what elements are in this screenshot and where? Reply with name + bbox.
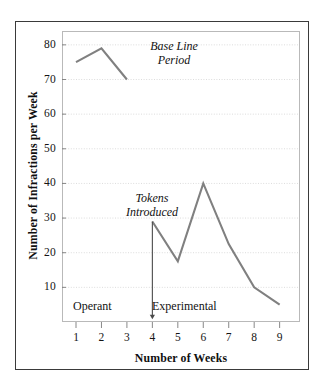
x-axis-title: Number of Weeks — [62, 351, 300, 366]
y-axis-title: Number of Infractions per Week — [26, 66, 41, 286]
x-tick-label-8: 8 — [244, 331, 264, 343]
y-tick-label-80: 80 — [26, 39, 56, 51]
annotation-tokens-introduced-line2: Introduced — [106, 206, 198, 220]
annotation-experimental-phase: Experimental — [152, 300, 217, 313]
x-axis-tick-marks — [76, 322, 280, 328]
x-tick-label-1: 1 — [66, 331, 86, 343]
annotation-operant-phase: Operant — [73, 300, 112, 313]
annotation-base-line-period-line2: Period — [128, 54, 220, 68]
arrow-head — [150, 315, 155, 320]
annotation-base-line-period-line1: Base Line — [128, 40, 220, 54]
x-tick-label-2: 2 — [91, 331, 111, 343]
annotation-tokens-introduced-line1: Tokens — [106, 192, 198, 206]
y-axis-tick-marks — [62, 45, 66, 288]
x-tick-label-4: 4 — [142, 331, 162, 343]
x-tick-label-7: 7 — [219, 331, 239, 343]
annotation-tokens-introduced: Tokens Introduced — [106, 192, 198, 219]
x-tick-label-5: 5 — [168, 331, 188, 343]
data-line-series-0 — [76, 48, 127, 79]
figure-root: 1020304050607080 123456789 Number of Inf… — [0, 0, 324, 390]
x-tick-label-6: 6 — [193, 331, 213, 343]
annotation-base-line-period: Base Line Period — [128, 40, 220, 67]
data-series-group — [76, 48, 280, 304]
x-tick-label-9: 9 — [270, 331, 290, 343]
x-tick-label-3: 3 — [117, 331, 137, 343]
